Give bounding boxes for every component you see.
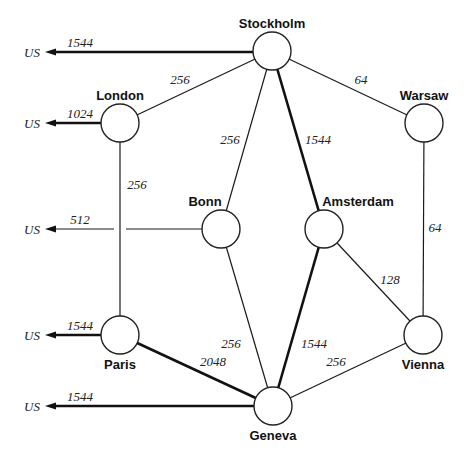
edge-bandwidth-label: 64 — [355, 72, 369, 87]
network-diagram: 2566425615442566425615441282048256 US154… — [0, 0, 467, 457]
edge-stockholm-warsaw: 64 — [272, 51, 424, 123]
us-destination-label: US — [24, 328, 40, 343]
node-vienna: Vienna — [402, 316, 445, 372]
us-link-bandwidth-label: 1544 — [67, 389, 94, 404]
us-link-stockholm: US1544 — [24, 35, 253, 60]
us-link-bandwidth-label: 1024 — [67, 106, 94, 121]
edge-stockholm-bonn: 256 — [220, 51, 272, 229]
arrowhead-left-icon — [45, 332, 56, 339]
arrowhead-left-icon — [45, 49, 56, 56]
node-label: Amsterdam — [322, 194, 394, 209]
edge-line — [423, 123, 424, 335]
node-circle-icon — [254, 387, 292, 425]
node-bonn: Bonn — [188, 194, 240, 248]
node-circle-icon — [101, 104, 139, 142]
node-circle-icon — [305, 210, 343, 248]
arrowhead-left-icon — [45, 403, 56, 410]
edge-paris-geneva: 2048 — [120, 335, 273, 406]
us-link-london: US1024 — [24, 106, 101, 131]
us-destination-label: US — [24, 222, 40, 237]
us-link-bandwidth-label: 512 — [70, 212, 90, 227]
edge-amsterdam-vienna: 128 — [324, 229, 423, 335]
arrowhead-left-icon — [45, 120, 56, 127]
edge-bandwidth-label: 256 — [170, 72, 190, 87]
node-circle-icon — [253, 32, 291, 70]
us-link-geneva: US1544 — [24, 389, 254, 414]
node-geneva: Geneva — [250, 387, 298, 443]
edge-line — [273, 335, 423, 406]
node-label: Warsaw — [400, 88, 450, 103]
edge-bandwidth-label: 64 — [429, 220, 443, 235]
edge-bonn-geneva: 256 — [221, 229, 273, 406]
us-link-bandwidth-label: 1544 — [67, 35, 94, 50]
edge-bandwidth-label: 128 — [380, 272, 400, 287]
edge-line — [120, 51, 272, 123]
edge-bandwidth-label: 2048 — [200, 354, 227, 369]
edge-bandwidth-label: 256 — [326, 354, 346, 369]
edge-line — [272, 51, 424, 123]
us-destination-label: US — [24, 45, 40, 60]
edge-bandwidth-label: 1544 — [301, 336, 328, 351]
node-label: Stockholm — [239, 16, 305, 31]
edge-line — [324, 229, 423, 335]
edge-stockholm-london: 256 — [120, 51, 272, 123]
us-destination-label: US — [24, 116, 40, 131]
edge-amsterdam-geneva: 1544 — [273, 229, 328, 406]
node-london: London — [96, 88, 144, 142]
us-link-bandwidth-label: 1544 — [67, 318, 94, 333]
edge-warsaw-vienna: 64 — [423, 123, 442, 335]
node-circle-icon — [202, 210, 240, 248]
edge-line — [273, 229, 324, 406]
node-circle-icon — [404, 316, 442, 354]
edge-line — [221, 229, 273, 406]
node-circle-icon — [405, 104, 443, 142]
edge-vienna-geneva: 256 — [273, 335, 423, 406]
node-label: Bonn — [188, 194, 221, 209]
node-label: London — [96, 88, 144, 103]
us-link-paris: US1544 — [24, 318, 101, 343]
edge-bandwidth-label: 1544 — [305, 132, 332, 147]
node-circle-icon — [101, 316, 139, 354]
edge-line — [120, 335, 273, 406]
node-label: Paris — [104, 357, 136, 372]
us-link-bonn: US512 — [24, 212, 202, 237]
node-paris: Paris — [101, 316, 139, 372]
edge-bandwidth-label: 256 — [221, 336, 241, 351]
node-label: Geneva — [250, 428, 298, 443]
arrowhead-left-icon — [45, 226, 56, 233]
edge-bandwidth-label: 256 — [220, 132, 240, 147]
node-label: Vienna — [402, 357, 445, 372]
node-amsterdam: Amsterdam — [305, 194, 394, 248]
us-destination-label: US — [24, 399, 40, 414]
edge-bandwidth-label: 256 — [127, 177, 147, 192]
node-warsaw: Warsaw — [400, 88, 450, 142]
